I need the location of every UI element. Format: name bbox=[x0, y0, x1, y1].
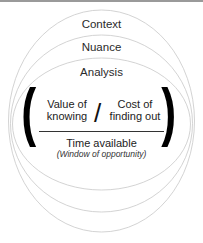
value-of-knowing: Value of knowing bbox=[38, 98, 96, 122]
cost-of-finding-out-line2: finding out bbox=[104, 110, 166, 122]
division-slash: / bbox=[94, 100, 101, 126]
value-of-knowing-line1: Value of bbox=[38, 98, 96, 110]
nuance-label: Nuance bbox=[0, 41, 203, 54]
fraction-line bbox=[39, 131, 164, 132]
time-available-label: Time available bbox=[0, 137, 203, 149]
window-of-opportunity-note: (Window of opportunity) bbox=[0, 149, 203, 159]
left-parenthesis: ( bbox=[21, 80, 36, 144]
value-of-knowing-line2: knowing bbox=[38, 110, 96, 122]
context-label: Context bbox=[0, 18, 203, 31]
cost-of-finding-out: Cost of finding out bbox=[104, 98, 166, 122]
cost-of-finding-out-line1: Cost of bbox=[104, 98, 166, 110]
